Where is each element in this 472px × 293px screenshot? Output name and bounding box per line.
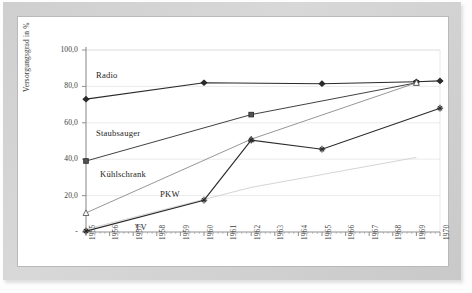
chart-svg	[0, 0, 472, 293]
series-label-tv: TV	[135, 222, 147, 232]
line-chart	[0, 0, 472, 293]
x-tick-label: 1958	[159, 225, 167, 240]
y-tick-label: -	[44, 227, 78, 236]
series-line-khlschrank	[86, 83, 416, 213]
data-point-staubsauger	[84, 159, 89, 164]
data-point-tv	[319, 146, 325, 153]
data-point-tv	[437, 105, 443, 112]
y-axis-title: Versorgungsgrad in %	[22, 0, 31, 92]
x-tick-label: 1959	[183, 225, 191, 240]
x-tick-label: 1965	[325, 225, 333, 240]
x-tick-label: 1966	[348, 225, 356, 240]
x-tick-label: 1961	[230, 225, 238, 240]
data-point-radio	[201, 80, 206, 85]
x-tick-label: 1956	[112, 225, 120, 240]
series-label-khlschrank: Kühlschrank	[100, 169, 146, 179]
data-point-radio	[437, 79, 442, 84]
data-point-radio	[319, 81, 324, 86]
x-tick-label: 1969	[419, 225, 427, 240]
x-tick-label: 1968	[395, 225, 403, 240]
series-label-radio: Radio	[96, 70, 118, 80]
data-point-khlschrank	[83, 210, 89, 216]
series-label-staubsauger: Staubsauger	[96, 128, 140, 138]
x-tick-label: 1963	[277, 225, 285, 240]
x-tick-label: 1962	[254, 225, 262, 240]
x-tick-label: 1964	[301, 225, 309, 240]
x-tick-label: 1967	[372, 225, 380, 240]
y-tick-label: 40,0	[44, 154, 78, 163]
y-tick-label: 100,0	[44, 45, 78, 54]
x-tick-label: 1955	[89, 225, 97, 240]
data-point-staubsauger	[249, 112, 254, 117]
series-line-staubsauger	[86, 83, 416, 161]
y-tick-label: 20,0	[44, 191, 78, 200]
screenshot-root: Versorgungsgrad in % 100,080,060,040,020…	[0, 0, 472, 293]
y-tick-label: 60,0	[44, 118, 78, 127]
x-tick-label: 1970	[443, 225, 451, 240]
data-point-radio	[83, 97, 88, 102]
series-line-radio	[86, 81, 440, 99]
y-tick-label: 80,0	[44, 81, 78, 90]
series-label-pkw: PKW	[160, 189, 180, 199]
x-tick-label: 1960	[207, 225, 215, 240]
